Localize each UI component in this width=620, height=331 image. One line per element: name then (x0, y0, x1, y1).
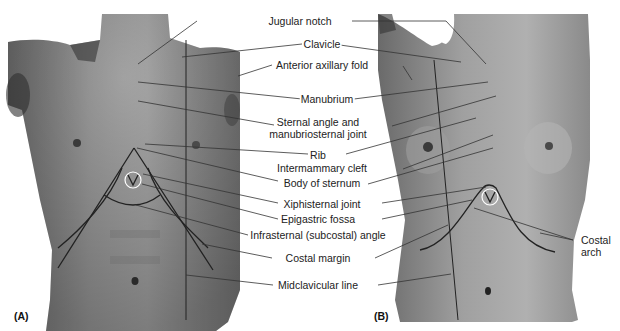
label-costal-margin: Costal margin (285, 252, 352, 264)
label-body-of-sternum: Body of sternum (283, 177, 361, 189)
label-manubrium: Manubrium (300, 93, 355, 105)
panel-a-photo (6, 14, 240, 331)
label-intermammary-cleft: Intermammary cleft (276, 162, 368, 174)
label-clavicle: Clavicle (303, 38, 342, 50)
label-infrasternal-angle: Infrasternal (subcostal) angle (249, 229, 386, 241)
panel-a-tag: (A) (14, 310, 29, 322)
label-anterior-axillary-fold: Anterior axillary fold (275, 59, 369, 71)
label-sternal-angle-line1: Sternal angle and (276, 116, 360, 128)
panel-b-tag: (B) (374, 310, 389, 322)
label-midclavicular-line: Midclavicular line (277, 279, 359, 291)
label-xiphisternal-joint: Xiphisternal joint (282, 198, 361, 210)
label-epigastric-fossa: Epigastric fossa (280, 213, 356, 225)
label-costal-arch-line1: Costal (580, 234, 612, 246)
label-rib: Rib (309, 149, 327, 161)
label-jugular-notch: Jugular notch (267, 15, 332, 27)
label-costal-arch-line2: arch (580, 246, 602, 258)
panel-b-photo (378, 14, 590, 322)
label-sternal-angle-line2: manubriosternal joint (268, 128, 367, 140)
anatomy-figure: Jugular notch Clavicle Anterior axillary… (0, 0, 620, 331)
